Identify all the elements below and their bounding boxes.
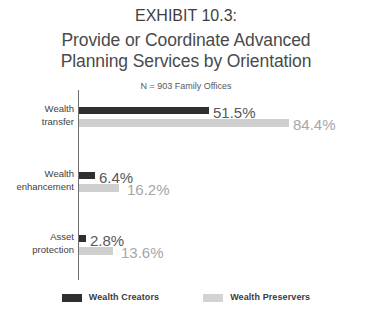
chart-title-line-2: Planning Services by Orientation: [0, 51, 372, 72]
chart-title-line-1: Provide or Coordinate Advanced: [0, 30, 372, 51]
value-label-wealth-transfer-creators: 51.5%: [213, 103, 256, 120]
bar-wealth-transfer-preservers[interactable]: [79, 119, 289, 127]
page-title: Provide or Coordinate Advanced Planning …: [0, 30, 372, 72]
value-label-asset-protection-preservers: 13.6%: [121, 243, 164, 260]
bar-asset-protection-creators[interactable]: [79, 235, 86, 242]
category-label-line-2: enhancement: [0, 181, 74, 194]
category-label-line-2: transfer: [0, 116, 74, 129]
category-label-line-1: Asset: [0, 231, 74, 244]
category-label-asset-protection: Asset protection: [0, 231, 74, 256]
category-label-wealth-enhancement: Wealth enhancement: [0, 168, 74, 193]
bar-wealth-transfer-creators[interactable]: [79, 107, 209, 114]
bar-asset-protection-preservers[interactable]: [79, 247, 113, 255]
bar-wealth-enhancement-creators[interactable]: [79, 172, 95, 179]
legend-swatch-creators-icon: [62, 294, 82, 302]
legend-item-wealth-preservers[interactable]: Wealth Preservers: [203, 292, 310, 303]
legend-label-wealth-creators: Wealth Creators: [89, 292, 159, 303]
exhibit-label: EXHIBIT 10.3:: [0, 7, 372, 25]
bar-wealth-enhancement-preservers[interactable]: [79, 184, 119, 192]
value-label-asset-protection-creators: 2.8%: [90, 231, 124, 248]
value-label-wealth-transfer-preservers: 84.4%: [293, 115, 336, 132]
chart-header: EXHIBIT 10.3: Provide or Coordinate Adva…: [0, 0, 372, 92]
value-label-wealth-enhancement-preservers: 16.2%: [127, 180, 170, 197]
legend-label-wealth-preservers: Wealth Preservers: [230, 292, 310, 303]
chart-legend: Wealth Creators Wealth Preservers: [0, 292, 372, 303]
category-label-wealth-transfer: Wealth transfer: [0, 103, 74, 128]
legend-item-wealth-creators[interactable]: Wealth Creators: [62, 292, 159, 303]
chart-plot-area: Wealth transfer 51.5% 84.4% Wealth enhan…: [0, 88, 372, 284]
category-label-line-1: Wealth: [0, 168, 74, 181]
category-label-line-2: protection: [0, 244, 74, 257]
category-label-line-1: Wealth: [0, 103, 74, 116]
legend-swatch-preservers-icon: [203, 294, 223, 302]
